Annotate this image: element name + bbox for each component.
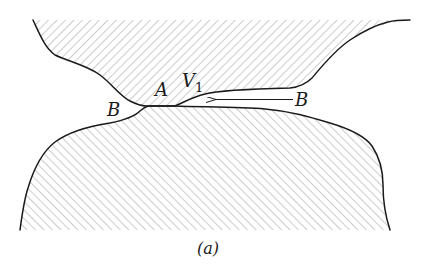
upper-body-fill [33,20,410,106]
label-v-subscript: 1 [195,80,203,95]
lower-body [20,106,390,230]
upper-body [33,20,410,106]
label-a: A [153,79,168,100]
contact-diagram: B A V1 B (a) [0,0,423,274]
label-left-b: B [106,99,120,120]
label-right-b: B [294,89,308,110]
figure-caption: (a) [197,239,219,258]
